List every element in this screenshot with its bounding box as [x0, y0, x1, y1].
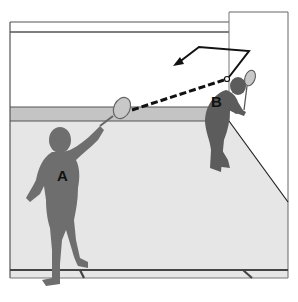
front-wall [10, 22, 229, 107]
player-a-label: A [57, 167, 68, 184]
court-illustration: B A [0, 0, 298, 302]
player-b-label: B [211, 93, 222, 110]
ball [225, 77, 230, 82]
squash-court-diagram: B A [0, 0, 298, 302]
